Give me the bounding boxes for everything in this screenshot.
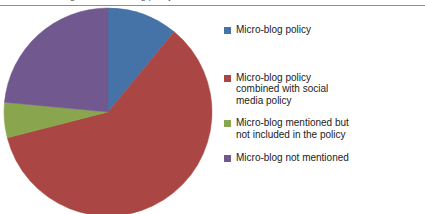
legend-swatch-icon: [224, 120, 231, 127]
legend-item-label: Micro-blog policy combined with social m…: [236, 72, 354, 107]
legend-item-label: Micro-blog mentioned but not included in…: [236, 117, 354, 140]
legend-swatch-icon: [224, 155, 231, 162]
clipped-caption-text: Figure 1. Micro-blog policy: [62, 0, 173, 1]
pie-plot-area: [0, 4, 220, 214]
chart-legend: Micro-blog policy Micro-blog policy comb…: [224, 24, 422, 163]
pie-slice-group: [4, 8, 212, 214]
pie-svg: [0, 4, 220, 214]
legend-swatch-icon: [224, 27, 231, 34]
legend-item-label: Micro-blog not mentioned: [236, 152, 349, 164]
legend-item[interactable]: Micro-blog policy: [224, 24, 422, 36]
legend-item[interactable]: Micro-blog not mentioned: [224, 152, 422, 164]
legend-swatch-icon: [224, 75, 231, 82]
legend-item[interactable]: Micro-blog policy combined with social m…: [224, 72, 422, 107]
legend-item[interactable]: Micro-blog mentioned but not included in…: [224, 117, 422, 140]
pie-slice[interactable]: [4, 8, 108, 112]
pie-chart-figure: Figure 1. Micro-blog policy Micro-blog p…: [0, 0, 425, 214]
legend-item-label: Micro-blog policy: [236, 24, 311, 36]
